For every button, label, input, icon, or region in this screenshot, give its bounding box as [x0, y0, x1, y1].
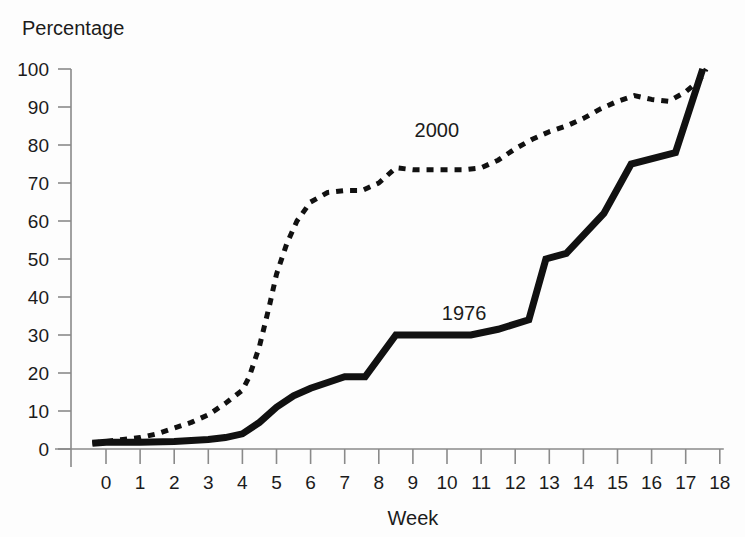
x-tick-label: 9: [408, 472, 419, 493]
x-tick-label: 6: [305, 472, 316, 493]
y-tick-label: 100: [17, 59, 49, 80]
x-tick-label: 10: [436, 472, 457, 493]
x-tick-label: 1: [135, 472, 146, 493]
chart-container: 0102030405060708090100012345678910111213…: [0, 0, 745, 537]
x-tick-label: 17: [675, 472, 696, 493]
axes-layer: 0102030405060708090100012345678910111213…: [17, 59, 730, 493]
series-annotation-1976: 1976: [442, 302, 487, 324]
x-tick-label: 0: [101, 472, 112, 493]
series-layer: [92, 69, 706, 443]
x-tick-label: 7: [339, 472, 350, 493]
y-axis-title: Percentage: [22, 17, 124, 39]
y-tick-label: 50: [28, 249, 49, 270]
y-tick-label: 70: [28, 173, 49, 194]
x-tick-label: 2: [169, 472, 180, 493]
x-tick-label: 13: [539, 472, 560, 493]
x-tick-label: 14: [573, 472, 595, 493]
y-tick-label: 30: [28, 325, 49, 346]
y-tick-label: 80: [28, 135, 49, 156]
x-tick-label: 16: [641, 472, 662, 493]
x-tick-label: 11: [471, 472, 491, 493]
x-axis-title: Week: [388, 507, 440, 529]
y-tick-label: 10: [28, 401, 49, 422]
x-tick-label: 4: [237, 472, 248, 493]
labels-layer: PercentageWeek20001976: [22, 17, 486, 529]
x-tick-label: 12: [505, 472, 526, 493]
x-tick-label: 15: [607, 472, 628, 493]
series-annotation-2000: 2000: [415, 119, 460, 141]
y-tick-label: 0: [38, 439, 49, 460]
x-tick-label: 8: [374, 472, 385, 493]
x-tick-label: 3: [203, 472, 214, 493]
y-tick-label: 90: [28, 97, 49, 118]
x-tick-label: 5: [271, 472, 282, 493]
line-chart: 0102030405060708090100012345678910111213…: [0, 0, 745, 537]
y-tick-label: 20: [28, 363, 49, 384]
y-tick-label: 60: [28, 211, 49, 232]
x-tick-label: 18: [709, 472, 730, 493]
series-line-1976: [92, 69, 702, 443]
y-tick-label: 40: [28, 287, 49, 308]
series-line-2000: [92, 69, 706, 443]
